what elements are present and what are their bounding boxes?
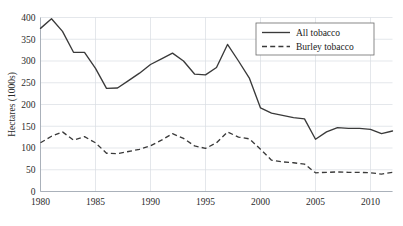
y-tick-label-300: 300 bbox=[21, 56, 36, 66]
x-tick-label-1995: 1995 bbox=[196, 197, 215, 207]
x-tick-label-2010: 2010 bbox=[361, 197, 380, 207]
y-tick-label-250: 250 bbox=[21, 78, 36, 88]
y-tick-label-400: 400 bbox=[21, 13, 36, 23]
y-tick-label-0: 0 bbox=[31, 187, 36, 197]
y-tick-label-200: 200 bbox=[21, 100, 36, 110]
y-tick-label-50: 50 bbox=[26, 165, 36, 175]
x-tick-label-2000: 2000 bbox=[251, 197, 270, 207]
chart-figure: 050100150200250300350400 198019851990199… bbox=[0, 0, 403, 226]
legend-label-all-tobacco: All tobacco bbox=[296, 28, 340, 38]
y-tick-label-150: 150 bbox=[21, 122, 36, 132]
chart-legend: All tobaccoBurley tobacco bbox=[256, 23, 374, 55]
y-axis-title: Hectares (1000s) bbox=[7, 72, 18, 137]
y-tick-label-100: 100 bbox=[21, 143, 36, 153]
line-chart: 050100150200250300350400 198019851990199… bbox=[0, 0, 403, 226]
x-tick-label-2005: 2005 bbox=[306, 197, 325, 207]
x-tick-label-1990: 1990 bbox=[141, 197, 160, 207]
y-tick-label-350: 350 bbox=[21, 35, 36, 45]
x-tick-label-1980: 1980 bbox=[31, 197, 50, 207]
x-tick-label-1985: 1985 bbox=[86, 197, 105, 207]
legend-label-burley-tobacco: Burley tobacco bbox=[296, 42, 354, 52]
